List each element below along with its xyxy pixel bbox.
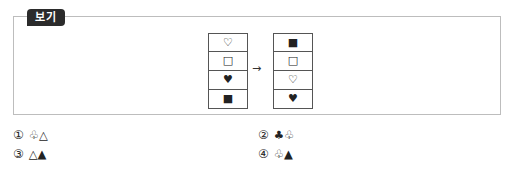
example-tag: 보기 <box>27 9 65 26</box>
choice-text: ♣♧ <box>274 128 295 142</box>
choice-text: ♧▲ <box>274 147 293 161</box>
choice-number: ④ <box>258 147 269 161</box>
choice-text: △▲ <box>29 147 47 161</box>
after-cell: ♡ <box>273 71 313 90</box>
before-column: ♡ □ ♥ ■ <box>208 33 248 109</box>
choice-number: ① <box>13 128 24 142</box>
choice-1[interactable]: ①♧△ <box>13 128 48 142</box>
after-cell: ♥ <box>273 90 313 109</box>
before-cell: □ <box>208 52 248 71</box>
choice-number: ② <box>258 128 269 142</box>
choice-4[interactable]: ④♧▲ <box>258 147 293 161</box>
choice-2[interactable]: ②♣♧ <box>258 128 294 142</box>
after-column: ■ □ ♡ ♥ <box>273 33 313 109</box>
choice-text: ♧△ <box>29 128 48 142</box>
choice-3[interactable]: ③△▲ <box>13 147 46 161</box>
arrow-icon: → <box>252 62 261 75</box>
after-cell: ■ <box>273 33 313 52</box>
before-cell: ♥ <box>208 71 248 90</box>
after-cell: □ <box>273 52 313 71</box>
choice-number: ③ <box>13 147 24 161</box>
before-cell: ♡ <box>208 33 248 52</box>
before-cell: ■ <box>208 90 248 109</box>
